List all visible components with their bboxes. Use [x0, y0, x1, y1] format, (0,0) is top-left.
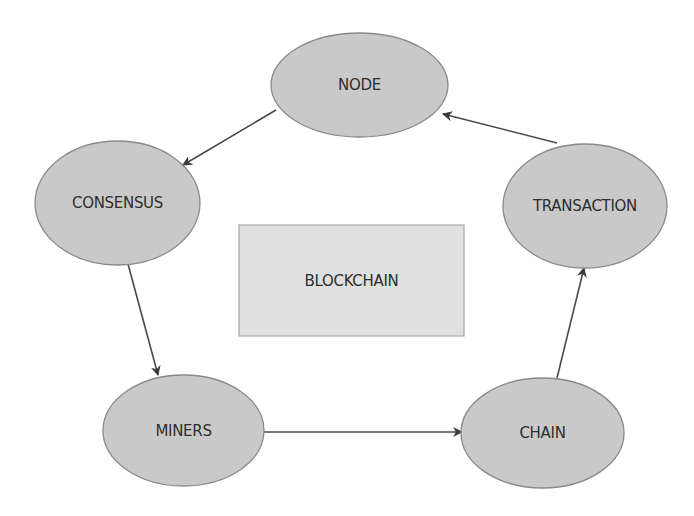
arrow-node-to-consensus	[183, 110, 276, 165]
arrow-consensus-to-miners	[128, 264, 158, 375]
blockchain-cycle-diagram: BLOCKCHAIN NODE CONSENSUS TRANSACTION MI…	[0, 0, 694, 516]
arrow-chain-to-transaction	[557, 268, 584, 378]
node-ellipse-transaction	[503, 144, 667, 268]
node-ellipse-consensus	[35, 141, 200, 265]
blockchain-center-box	[239, 225, 464, 336]
node-ellipse-node	[271, 33, 448, 137]
arrow-transaction-to-node	[443, 114, 557, 143]
diagram-canvas	[0, 0, 694, 516]
node-ellipse-miners	[103, 375, 264, 486]
node-ellipse-chain	[461, 378, 624, 488]
shapes-group	[35, 33, 667, 488]
